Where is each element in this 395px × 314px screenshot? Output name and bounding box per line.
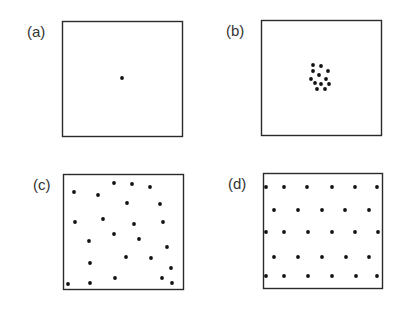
point-dot [353,185,357,189]
point-dot [160,276,164,280]
point-dot [264,274,268,278]
panel-d [264,174,383,289]
point-dot [305,185,309,189]
panel-c [64,175,184,290]
panel-b [262,21,382,136]
point-dot [66,282,70,286]
point-dot [317,73,321,77]
point-dot [311,69,315,73]
point-dot [72,190,76,194]
point-dot [282,274,286,278]
point-dot [319,82,323,86]
point-dot [170,281,174,285]
point-dot [354,274,358,278]
point-dot [272,208,276,212]
point-dot [282,185,286,189]
point-dot [324,77,328,81]
point-dot [132,222,136,226]
point-dot [148,185,152,189]
point-dot [130,182,134,186]
point-dot [323,87,327,91]
point-dot [326,69,330,73]
point-pattern-diagram [0,0,395,314]
point-dot [73,220,77,224]
point-dot [344,255,348,259]
point-dot [112,232,116,236]
point-dot [264,230,268,234]
point-dot [149,256,153,260]
point-dot [330,185,334,189]
point-dot [101,217,105,221]
point-dot [161,220,165,224]
panel-c-label: (c) [33,176,51,193]
point-dot [96,193,100,197]
point-dot [112,181,116,185]
point-dot [320,255,324,259]
point-dot [296,208,300,212]
panel-c-frame [64,175,184,290]
point-dot [343,208,347,212]
point-dot [327,82,331,86]
point-dot [313,81,317,85]
panel-a [63,22,183,137]
point-dot [113,276,117,280]
point-dot [375,274,379,278]
point-dot [264,185,268,189]
panel-d-frame [264,174,383,289]
point-dot [125,201,129,205]
point-dot [319,64,323,68]
panel-d-label: (d) [228,175,246,192]
point-dot [330,230,334,234]
point-dot [376,230,380,234]
point-dot [124,255,128,259]
point-dot [165,245,169,249]
point-dot [375,185,379,189]
point-dot [120,76,124,80]
panel-b-label: (b) [226,22,244,39]
point-dot [315,87,319,91]
point-dot [87,239,91,243]
point-dot [88,261,92,265]
point-dot [296,255,300,259]
point-dot [158,202,162,206]
point-dot [137,237,141,241]
point-dot [282,230,286,234]
point-dot [88,281,92,285]
point-dot [320,208,324,212]
point-dot [169,266,173,270]
point-dot [306,230,310,234]
point-dot [353,230,357,234]
point-dot [367,208,371,212]
panel-b-frame [262,21,382,136]
panel-a-label: (a) [27,23,45,40]
point-dot [272,255,276,259]
point-dot [367,255,371,259]
point-dot [309,77,313,81]
point-dot [330,274,334,278]
point-dot [306,274,310,278]
point-dot [311,63,315,67]
